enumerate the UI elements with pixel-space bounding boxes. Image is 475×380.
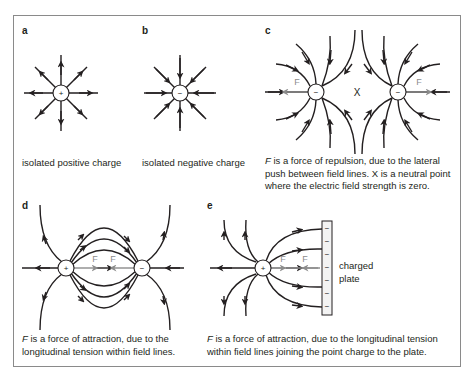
svg-text:−: − xyxy=(325,250,330,259)
svg-text:+: + xyxy=(261,264,266,273)
svg-text:−: − xyxy=(325,224,330,233)
caption-b: isolated negative charge xyxy=(142,157,245,170)
svg-text:−: − xyxy=(325,263,330,272)
plate-label: chargedplate xyxy=(339,260,373,285)
neutral-point-x: X xyxy=(354,87,361,98)
svg-text:F: F xyxy=(280,254,286,264)
caption-e: F is a force of attraction, due to the l… xyxy=(207,333,457,358)
caption-c: F is a force of repulsion, due to the la… xyxy=(265,155,455,193)
svg-text:−: − xyxy=(325,302,330,311)
caption-d: F is a force of attraction, due to the l… xyxy=(22,333,202,358)
svg-text:−: − xyxy=(325,276,330,285)
svg-text:−: − xyxy=(178,89,183,98)
svg-text:F: F xyxy=(416,77,422,87)
svg-text:F: F xyxy=(294,77,300,87)
svg-text:−: − xyxy=(396,88,401,97)
svg-text:+: + xyxy=(59,89,64,98)
svg-text:F: F xyxy=(110,254,116,264)
svg-text:−: − xyxy=(140,264,145,273)
svg-text:F: F xyxy=(92,254,98,264)
svg-text:F: F xyxy=(302,254,308,264)
svg-text:−: − xyxy=(314,88,319,97)
svg-text:−: − xyxy=(325,289,330,298)
svg-text:−: − xyxy=(325,237,330,246)
svg-text:+: + xyxy=(64,264,69,273)
caption-a: isolated positive charge xyxy=(22,157,121,170)
panel-d-field-lines xyxy=(22,205,184,330)
